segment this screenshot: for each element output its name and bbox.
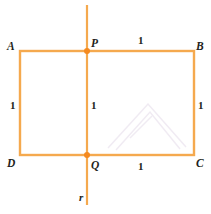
vertex-label-a: A — [7, 41, 15, 53]
vertex-label-p: P — [91, 38, 98, 50]
length-label-right: 1 — [198, 100, 204, 111]
length-label-left: 1 — [10, 100, 16, 111]
point-p-marker — [84, 48, 90, 54]
figure-canvas — [0, 0, 211, 214]
axis-label-r: r — [79, 192, 83, 203]
length-label-middle: 1 — [91, 100, 97, 111]
rectangle-abcd — [20, 51, 194, 155]
length-label-top: 1 — [138, 35, 144, 46]
vertex-label-c: C — [196, 158, 204, 170]
vertex-label-b: B — [196, 41, 204, 53]
geometry-figure: A B C D P Q r 1 1 1 1 1 — [0, 0, 211, 214]
vertex-label-d: D — [7, 158, 15, 170]
watermark-artifacts — [108, 104, 186, 150]
point-q-marker — [84, 152, 90, 158]
vertex-label-q: Q — [91, 160, 99, 172]
length-label-bottom: 1 — [138, 161, 144, 172]
